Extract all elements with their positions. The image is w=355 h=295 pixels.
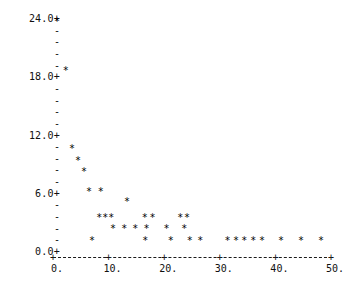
y-axis-minor-tick: -: [0, 61, 60, 71]
data-point-marker: *: [317, 236, 324, 246]
data-point-marker: *: [97, 187, 104, 197]
data-point-marker: *: [88, 236, 95, 246]
y-axis-minor-tick: -: [0, 200, 60, 210]
y-axis-minor-tick: -: [0, 37, 60, 47]
data-point-marker: *: [149, 213, 156, 223]
x-axis-tick-label: 50.: [326, 264, 344, 274]
data-point-marker: *: [186, 236, 193, 246]
data-point-marker: *: [81, 167, 88, 177]
x-axis-line: [53, 257, 332, 258]
data-point-marker: *: [197, 236, 204, 246]
x-axis-tick-label: 20.: [159, 264, 177, 274]
y-axis-minor-tick: -: [0, 177, 60, 187]
data-point-marker: *: [141, 213, 148, 223]
y-axis-tick-label: 24.0+: [0, 14, 60, 24]
x-axis-tick-label: 40.: [270, 264, 288, 274]
y-axis-minor-tick: -: [0, 165, 60, 175]
data-point-marker: *: [181, 224, 188, 234]
data-point-marker: *: [277, 236, 284, 246]
y-axis-minor-tick: -: [0, 96, 60, 106]
y-axis-minor-tick: -: [0, 119, 60, 129]
data-point-marker: *: [62, 66, 69, 76]
data-point-marker: *: [132, 224, 139, 234]
y-axis-minor-tick: -: [0, 224, 60, 234]
x-axis-tick-label: 0.: [51, 264, 63, 274]
data-point-marker: *: [86, 187, 93, 197]
y-axis-minor-tick: -: [0, 26, 60, 36]
data-point-marker: *: [53, 17, 60, 27]
x-axis-tick-label: 10.: [104, 264, 122, 274]
y-axis-tick-label: 6.0+: [0, 189, 60, 199]
y-axis-tick-label: 18.0+: [0, 72, 60, 82]
data-point-marker: *: [297, 236, 304, 246]
data-point-marker: *: [121, 224, 128, 234]
data-point-marker: *: [232, 236, 239, 246]
scatter-plot-canvas: 24.0+18.0+12.0+6.0+0.0+ ----------------…: [0, 0, 355, 295]
y-axis-minor-tick: -: [0, 212, 60, 222]
y-axis-tick-label: 12.0+: [0, 131, 60, 141]
data-point-marker: *: [183, 213, 190, 223]
data-point-marker: *: [241, 236, 248, 246]
data-point-marker: *: [68, 144, 75, 154]
y-axis-minor-tick: -: [0, 235, 60, 245]
data-point-marker: *: [163, 224, 170, 234]
y-axis-minor-tick: -: [0, 49, 60, 59]
data-point-marker: *: [259, 236, 266, 246]
data-point-marker: *: [167, 236, 174, 246]
data-point-marker: *: [75, 156, 82, 166]
data-point-marker: *: [224, 236, 231, 246]
data-point-marker: *: [142, 236, 149, 246]
y-axis-minor-tick: -: [0, 84, 60, 94]
y-axis: 24.0+18.0+12.0+6.0+0.0+ ----------------: [0, 0, 60, 295]
data-point-marker: *: [108, 213, 115, 223]
y-axis-minor-tick: -: [0, 107, 60, 117]
data-point-marker: *: [143, 224, 150, 234]
data-point-marker: *: [110, 224, 117, 234]
data-point-marker: *: [123, 197, 130, 207]
x-axis-tick-label: 30.: [215, 264, 233, 274]
y-axis-minor-tick: -: [0, 154, 60, 164]
data-point-marker: *: [250, 236, 257, 246]
y-axis-minor-tick: -: [0, 142, 60, 152]
